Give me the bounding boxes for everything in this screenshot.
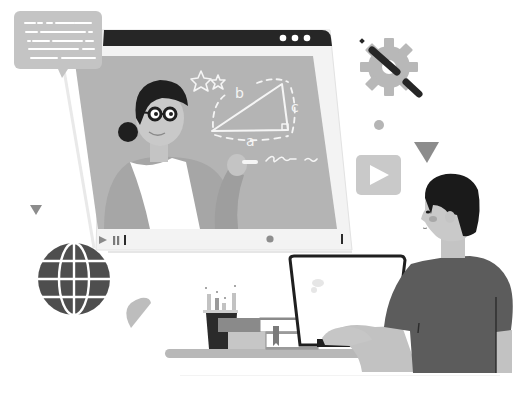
end-marker [341,234,343,244]
chalk [242,160,258,164]
bookmark [273,326,279,346]
triangle-shape-small [30,205,42,215]
window-dot-1[interactable] [280,35,287,42]
window-dot-2[interactable] [292,35,299,42]
video-window: b c a [64,30,352,252]
illustration-scene: b c a [0,0,526,393]
pause-icon[interactable] [113,236,115,245]
label-c: c [291,99,299,115]
window-dot-3[interactable] [304,35,311,42]
label-b: b [235,85,244,101]
globe-icon [38,243,110,315]
triangle-shape [414,142,439,163]
play-button-icon[interactable] [356,155,401,195]
teacher-hand [227,154,247,176]
half-circle-shape [126,298,151,328]
label-a: a [246,133,255,149]
chat-bubble [14,11,102,78]
progress-dot[interactable] [266,235,273,242]
circle-shape [374,120,384,130]
